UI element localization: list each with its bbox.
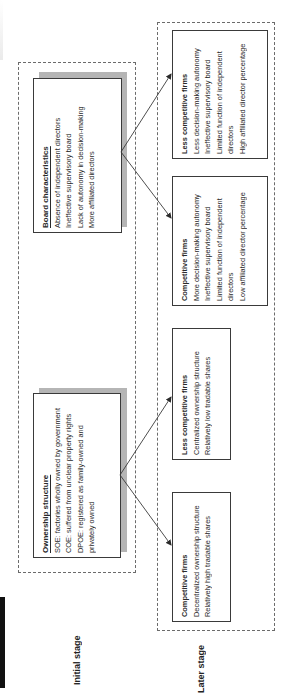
arrow-board-to-competitive bbox=[121, 152, 171, 218]
arrow-board-to-less-competitive bbox=[121, 74, 171, 152]
board-arrows bbox=[121, 74, 171, 218]
ownership-arrows bbox=[120, 397, 171, 545]
arrow-ownership-to-competitive bbox=[120, 475, 171, 545]
arrows-layer bbox=[0, 0, 297, 693]
arrow-ownership-to-less-competitive bbox=[120, 397, 171, 475]
